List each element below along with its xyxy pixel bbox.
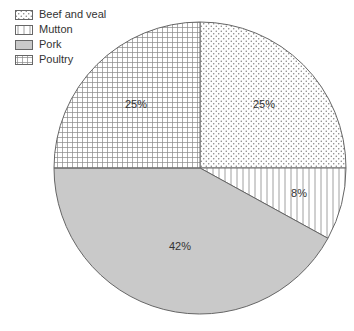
legend-item-mutton: Mutton	[15, 22, 106, 37]
legend-item-beef-and-veal: Beef and veal	[15, 7, 106, 22]
gray-fill-swatch-icon	[15, 40, 33, 50]
slice-percent-label: 42%	[169, 240, 191, 252]
legend-item-pork: Pork	[15, 37, 106, 52]
legend-label: Poultry	[39, 52, 73, 67]
legend-label: Beef and veal	[39, 7, 106, 22]
legend-label: Pork	[39, 37, 62, 52]
slice-percent-label: 8%	[291, 187, 307, 199]
legend-label: Mutton	[39, 22, 73, 37]
slice-percent-label: 25%	[253, 98, 275, 110]
stripes-pattern-swatch-icon	[15, 25, 33, 35]
legend: Beef and veal Mutton Pork Poultry	[15, 7, 106, 67]
grid-pattern-swatch-icon	[15, 55, 33, 65]
dots-pattern-swatch-icon	[15, 10, 33, 20]
slice-percent-label: 25%	[125, 98, 147, 110]
legend-item-poultry: Poultry	[15, 52, 106, 67]
pie-slice-beef-and-veal	[200, 22, 346, 168]
